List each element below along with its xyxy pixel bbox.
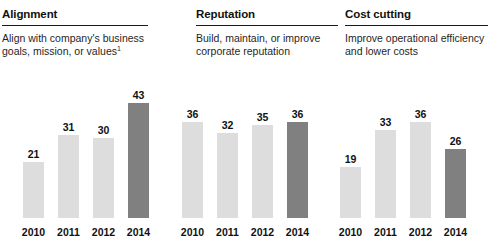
x-axis-tick-label: 2011 (54, 226, 84, 238)
panel-description: Align with company's business goals, mis… (2, 26, 152, 58)
x-axis-tick-label: 2014 (283, 226, 313, 238)
panel-title: Alignment (2, 0, 163, 21)
x-axis-tick-label: 2012 (248, 226, 278, 238)
bar-value-label: 32 (213, 119, 243, 131)
bar (445, 149, 466, 218)
x-axis-tick-label: 2010 (19, 226, 49, 238)
bar (128, 103, 149, 218)
panel-description-text: Align with company's business goals, mis… (2, 32, 144, 57)
panel-cost-cutting: Cost cutting Improve operational efficie… (326, 0, 488, 242)
panel-description: Improve operational efficiency and lower… (345, 26, 488, 58)
x-axis-tick-label: 2010 (336, 226, 366, 238)
bar-value-label: 36 (178, 108, 208, 120)
bar (182, 122, 203, 218)
bar (410, 122, 431, 218)
x-axis-tick-label: 2011 (371, 226, 401, 238)
bar (340, 167, 361, 218)
bar (93, 138, 114, 218)
bar (375, 130, 396, 218)
x-axis-tick-label: 2012 (89, 226, 119, 238)
bar (23, 162, 44, 218)
panel-description-text: Build, maintain, or improve corporate re… (196, 32, 320, 57)
bar-value-label: 35 (248, 111, 278, 123)
panel-alignment: Alignment Align with company's business … (0, 0, 163, 242)
bar-value-label: 36 (406, 108, 436, 120)
panel-reputation: Reputation Build, maintain, or improve c… (163, 0, 326, 242)
x-axis-tick-label: 2012 (406, 226, 436, 238)
bar-value-label: 30 (89, 124, 119, 136)
bar-value-label: 19 (336, 153, 366, 165)
panel-row: Alignment Align with company's business … (0, 0, 488, 242)
bar-value-label: 31 (54, 121, 84, 133)
bar-value-label: 36 (283, 108, 313, 120)
bar-value-label: 43 (124, 89, 154, 101)
panel-description-text: Improve operational efficiency and lower… (345, 32, 484, 57)
panel-title: Reputation (196, 0, 326, 21)
panel-title: Cost cutting (345, 0, 488, 21)
x-axis-tick-label: 2014 (124, 226, 154, 238)
bar (287, 122, 308, 218)
bar-value-label: 26 (441, 135, 471, 147)
bar (252, 125, 273, 218)
x-axis-tick-label: 2010 (178, 226, 208, 238)
bar-value-label: 21 (19, 148, 49, 160)
panel-description: Build, maintain, or improve corporate re… (196, 26, 326, 58)
x-axis-tick-label: 2014 (441, 226, 471, 238)
bar (217, 133, 238, 218)
bar-value-label: 33 (371, 116, 401, 128)
bar (58, 135, 79, 218)
x-axis-tick-label: 2011 (213, 226, 243, 238)
footnote-marker: 1 (117, 45, 121, 52)
